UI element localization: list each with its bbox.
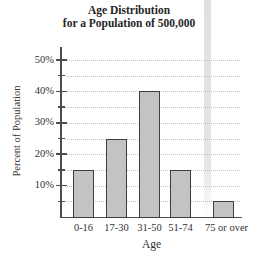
chart-title: Age Distribution for a Population of 500… [0, 4, 258, 29]
chart-title-line1: Age Distribution [0, 4, 258, 17]
x-axis-title: Age [61, 238, 242, 250]
major-tick-50pct [56, 59, 67, 61]
bar-0-16 [73, 170, 94, 218]
bar-75-or-over [213, 201, 234, 218]
major-tick-20pct [56, 153, 67, 155]
minor-tick-25pct [58, 138, 65, 140]
age-distribution-bar-chart: Age Distribution for a Population of 500… [0, 0, 258, 261]
y-tick-label-50pct: 50% [18, 54, 54, 65]
scan-artifact-band [204, 0, 211, 220]
chart-title-line2: for a Population of 500,000 [0, 17, 258, 30]
x-tick-label-75-or-over: 75 or over [192, 222, 259, 233]
y-axis-label: Percent of Population [11, 86, 22, 177]
minor-tick-15pct [58, 169, 65, 171]
gridline-45pct [65, 76, 240, 77]
minor-tick-45pct [58, 75, 65, 77]
major-tick-30pct [56, 122, 67, 124]
y-tick-label-30pct: 30% [18, 116, 54, 127]
bar-17-30 [106, 139, 127, 219]
bar-51-74 [170, 170, 191, 218]
y-tick-label-20pct: 20% [18, 148, 54, 159]
major-tick-10pct [56, 185, 67, 187]
bar-31-50 [139, 91, 160, 218]
minor-tick-5pct [58, 201, 65, 203]
y-axis-line [60, 47, 62, 218]
y-tick-label-40pct: 40% [18, 85, 54, 96]
major-tick-40pct [56, 91, 67, 93]
y-tick-label-10pct: 10% [18, 179, 54, 190]
gridline-50pct [65, 60, 240, 61]
minor-tick-35pct [58, 106, 65, 108]
